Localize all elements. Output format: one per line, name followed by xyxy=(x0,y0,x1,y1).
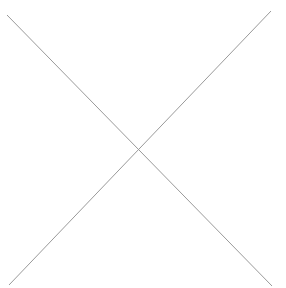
image-placeholder xyxy=(0,0,286,288)
diagonal-line-ascending xyxy=(9,11,271,285)
x-cross-icon xyxy=(0,0,286,288)
